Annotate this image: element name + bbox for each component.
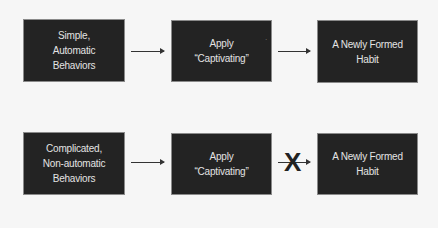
box-complicated-non-automatic-behaviors: Complicated, Non-automatic Behaviors: [23, 132, 125, 195]
stray-mark: ·: [265, 36, 267, 43]
arrow-right-icon: [131, 162, 164, 163]
blocked-x-icon: X: [284, 149, 301, 175]
box-apply-captivating: Apply “Captivating”: [171, 20, 272, 82]
box-newly-formed-habit: A Newly Formed Habit: [317, 20, 418, 83]
box-simple-automatic-behaviors: Simple, Automatic Behaviors: [23, 19, 125, 82]
box-newly-formed-habit: A Newly Formed Habit: [317, 133, 418, 195]
arrow-right-icon: [278, 51, 310, 52]
arrow-right-icon: [131, 51, 164, 52]
box-apply-captivating: Apply “Captivating”: [171, 133, 272, 195]
